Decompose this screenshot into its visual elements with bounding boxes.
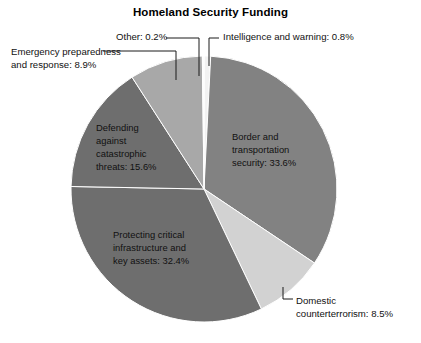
slice-label-defending-against-catastrophic-threats: Defending against catastrophic threats: … [96,121,182,173]
slice-label-border-and-transportation-security: Border and transportation security: 33.6… [232,130,332,169]
pie-chart-figure: Homeland Security Funding Other: 0.2% In… [0,0,421,343]
slice-label-other: Other: 0.2% [116,31,204,44]
slice-label-protecting-critical-infrastructure: Protecting critical infrastructure and k… [113,228,225,267]
slice-label-domestic-counterterrorism: Domestic counterterrorism: 8.5% [296,295,420,320]
pie-slice-group [71,56,337,322]
slice-label-intelligence-and-warning: Intelligence and warning: 0.8% [223,31,403,44]
slice-label-emergency-preparedness-and-response: Emergency preparedness and response: 8.9… [11,46,151,71]
